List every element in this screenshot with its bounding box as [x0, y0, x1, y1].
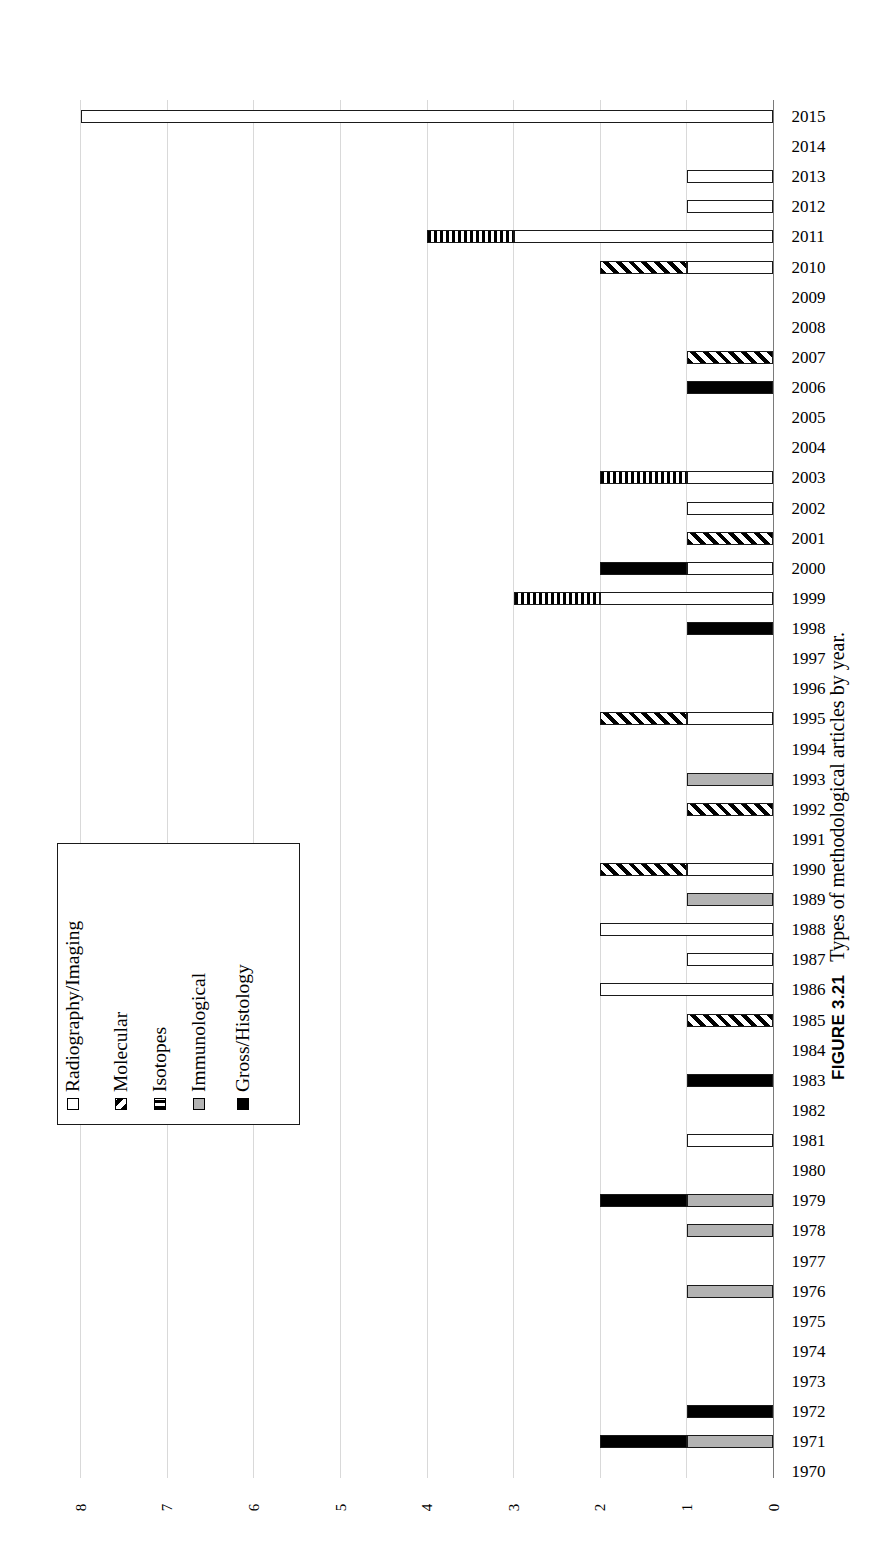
bar-segment-1993-immuno	[687, 773, 774, 786]
bar-segment-2010-radiography	[687, 261, 774, 274]
bar-row-1989	[687, 893, 774, 906]
bar-segment-2003-isotopes	[600, 471, 687, 484]
year-label-1983: 1983	[792, 1072, 826, 1089]
bar-row-2006	[687, 381, 774, 394]
value-tick-label: 0	[766, 1495, 781, 1521]
year-label-2000: 2000	[792, 560, 826, 577]
figure-caption-text: Types of methodological articles by year…	[828, 632, 847, 962]
year-label-2007: 2007	[792, 349, 826, 366]
bar-segment-2003-radiography	[687, 471, 774, 484]
year-label-2006: 2006	[792, 379, 826, 396]
year-label-1989: 1989	[792, 891, 826, 908]
year-label-1971: 1971	[792, 1433, 826, 1450]
bar-segment-1983-gross	[687, 1074, 774, 1087]
bar-segment-1989-immuno	[687, 893, 774, 906]
bar-row-1999	[514, 592, 774, 605]
year-label-1977: 1977	[792, 1253, 826, 1270]
year-label-2014: 2014	[792, 138, 826, 155]
bar-row-1992	[687, 803, 774, 816]
value-tick-label: 4	[420, 1495, 435, 1521]
legend-item-radiography: Radiography/Imaging	[63, 921, 82, 1110]
legend-swatch-gross-icon	[237, 1098, 249, 1110]
bar-segment-1990-radiography	[687, 863, 774, 876]
bar-segment-2012-radiography	[687, 200, 774, 213]
year-label-1991: 1991	[792, 831, 826, 848]
bar-row-1978	[687, 1224, 774, 1237]
bar-segment-1998-gross	[687, 622, 774, 635]
legend-swatch-radiography-icon	[67, 1098, 79, 1110]
value-tick-label: 3	[506, 1495, 521, 1521]
year-label-2004: 2004	[792, 439, 826, 456]
bar-row-2007	[687, 351, 774, 364]
year-label-1994: 1994	[792, 741, 826, 758]
year-label-1974: 1974	[792, 1343, 826, 1360]
bar-segment-1995-radiography	[687, 712, 774, 725]
year-label-1990: 1990	[792, 861, 826, 878]
bar-segment-2011-radiography	[514, 230, 774, 243]
bar-segment-1992-molecular	[687, 803, 774, 816]
year-label-1986: 1986	[792, 981, 826, 998]
bar-segment-1995-molecular	[600, 712, 687, 725]
year-label-2008: 2008	[792, 319, 826, 336]
value-tick-label: 7	[160, 1495, 175, 1521]
bar-segment-2010-molecular	[600, 261, 687, 274]
bar-row-1979	[600, 1194, 773, 1207]
bar-row-1993	[687, 773, 774, 786]
year-label-1993: 1993	[792, 771, 826, 788]
value-tick-label: 2	[593, 1495, 608, 1521]
bar-segment-1972-gross	[687, 1405, 774, 1418]
bar-segment-2001-molecular	[687, 532, 774, 545]
year-label-2011: 2011	[792, 228, 825, 245]
year-label-1992: 1992	[792, 801, 826, 818]
bar-segment-1986-radiography	[600, 983, 773, 996]
year-label-2010: 2010	[792, 259, 826, 276]
year-label-1970: 1970	[792, 1463, 826, 1480]
legend-swatch-molecular-icon	[115, 1098, 127, 1110]
legend-item-immuno: Immunological	[189, 973, 208, 1110]
value-tick-label: 6	[246, 1495, 261, 1521]
bar-row-1998	[687, 622, 774, 635]
year-label-2005: 2005	[792, 409, 826, 426]
bar-segment-1988-radiography	[600, 923, 773, 936]
year-label-2009: 2009	[792, 289, 826, 306]
chart-legend: Radiography/ImagingMolecularIsotopesImmu…	[57, 843, 300, 1125]
year-label-1988: 1988	[792, 921, 826, 938]
bar-row-1990	[600, 863, 773, 876]
year-label-1985: 1985	[792, 1012, 826, 1029]
year-label-2001: 2001	[792, 530, 826, 547]
value-tick-label: 5	[333, 1495, 348, 1521]
bar-segment-1981-radiography	[687, 1134, 774, 1147]
bar-row-1986	[600, 983, 773, 996]
bar-segment-1971-gross	[600, 1435, 687, 1448]
year-label-1995: 1995	[792, 710, 826, 727]
year-label-1978: 1978	[792, 1222, 826, 1239]
bar-row-2002	[687, 502, 774, 515]
legend-label: Immunological	[189, 973, 208, 1092]
year-label-1996: 1996	[792, 680, 826, 697]
year-label-1976: 1976	[792, 1283, 826, 1300]
value-tick-label: 1	[679, 1495, 694, 1521]
bar-segment-2002-radiography	[687, 502, 774, 515]
gridline-1	[686, 100, 687, 1478]
bar-segment-1999-isotopes	[514, 592, 601, 605]
bar-row-2000	[600, 562, 773, 575]
bar-segment-2007-molecular	[687, 351, 774, 364]
gridline-4	[427, 100, 428, 1478]
bar-segment-1971-immuno	[687, 1435, 774, 1448]
bar-row-2001	[687, 532, 774, 545]
gridline-8	[80, 100, 81, 1478]
bar-segment-1978-immuno	[687, 1224, 774, 1237]
year-label-2003: 2003	[792, 469, 826, 486]
bar-row-1971	[600, 1435, 773, 1448]
bar-row-2011	[427, 230, 773, 243]
year-label-1979: 1979	[792, 1192, 826, 1209]
gridline-2	[600, 100, 601, 1478]
bar-segment-1985-molecular	[687, 1014, 774, 1027]
year-label-1984: 1984	[792, 1042, 826, 1059]
bar-segment-1976-immuno	[687, 1285, 774, 1298]
year-label-1980: 1980	[792, 1162, 826, 1179]
year-label-1975: 1975	[792, 1313, 826, 1330]
bar-row-2015	[81, 110, 774, 123]
legend-item-molecular: Molecular	[111, 1012, 130, 1110]
legend-swatch-immuno-icon	[193, 1098, 205, 1110]
